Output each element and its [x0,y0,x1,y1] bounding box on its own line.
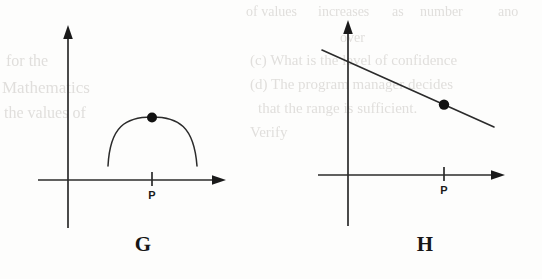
figure-h: P [271,0,542,240]
y-axis-g [63,25,73,228]
arc-curve-g [108,117,197,166]
marked-point-h [439,99,449,109]
axis-tick-label-p-h: P [440,184,447,196]
axis-tick-label-p-g: P [148,189,155,201]
marked-point-g [147,113,157,123]
figure-page: of values increases as number ano over (… [0,0,542,279]
figure-label-g: G [113,234,173,255]
figure-h-drawing: P [271,0,542,240]
figure-g: P [0,0,271,240]
figure-label-h: H [395,234,455,255]
figure-g-drawing: P [0,0,271,240]
x-axis-h [318,170,505,180]
x-axis-g [38,175,226,185]
y-axis-h [343,20,353,226]
